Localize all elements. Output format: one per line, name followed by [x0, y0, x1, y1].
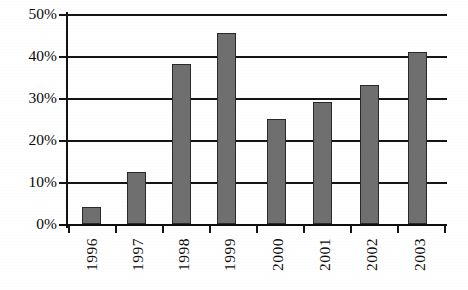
- x-axis-label-1998: 1998: [176, 238, 190, 271]
- x-axis-label-2000: 2000: [270, 238, 284, 271]
- y-axis-label-0: 0%: [0, 216, 57, 232]
- x-axis-label-1999: 1999: [222, 238, 236, 271]
- x-axis-label-2001: 2001: [317, 238, 331, 271]
- x-tick-7: [397, 225, 399, 233]
- y-axis-label-10: 10%: [0, 174, 57, 190]
- x-tick-8: [444, 225, 446, 233]
- y-axis-label-50: 50%: [0, 6, 57, 22]
- x-tick-2: [162, 225, 164, 233]
- x-tick-4: [256, 225, 258, 233]
- y-axis-label-30: 30%: [0, 90, 57, 106]
- y-axis-label-20: 20%: [0, 132, 57, 148]
- x-axis-label-1996: 1996: [84, 238, 98, 271]
- x-axis-label-1997: 1997: [130, 238, 144, 271]
- x-axis-line: [60, 224, 447, 226]
- x-axis-label-2003: 2003: [412, 238, 426, 271]
- x-tick-0: [68, 225, 70, 233]
- y-axis-label-40: 40%: [0, 48, 57, 64]
- x-tick-6: [350, 225, 352, 233]
- x-axis-label-2002: 2002: [364, 238, 378, 271]
- x-tick-5: [303, 225, 305, 233]
- bar-chart-figure: 50% 40% 30% 20% 10% 0% 1996 1997 1998 19…: [0, 0, 468, 290]
- x-tick-3: [209, 225, 211, 233]
- x-tick-1: [115, 225, 117, 233]
